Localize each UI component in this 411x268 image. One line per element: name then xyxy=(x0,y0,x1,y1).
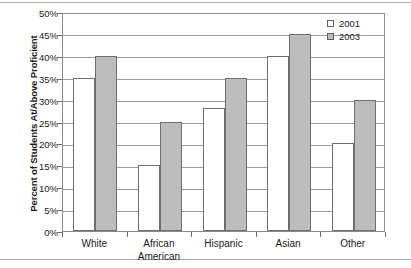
bar-white-2003 xyxy=(95,56,117,231)
bar-white-2001 xyxy=(73,78,95,231)
bar-other-2003 xyxy=(354,100,376,231)
x-axis-tick-mark xyxy=(191,232,192,237)
y-axis-tick-label: 50% xyxy=(12,8,58,19)
y-axis-tick-label: 25% xyxy=(12,117,58,128)
legend-item-2003[interactable]: 2003 xyxy=(327,30,383,42)
bar-hispanic-2001 xyxy=(203,108,225,231)
legend-item-label: 2003 xyxy=(339,31,360,42)
bar-african-american-2003 xyxy=(160,122,182,232)
x-axis-category-label: African American xyxy=(127,238,192,263)
y-axis-tick-label: 40% xyxy=(12,51,58,62)
x-axis-tick-mark xyxy=(127,232,128,237)
y-axis-tick-label: 0% xyxy=(12,227,58,238)
y-axis-tick-label: 10% xyxy=(12,183,58,194)
bar-other-2001 xyxy=(332,143,354,231)
y-axis-tick-label: 45% xyxy=(12,29,58,40)
legend-item-2001[interactable]: 2001 xyxy=(327,17,383,29)
legend-swatch-2003 xyxy=(327,33,334,40)
x-axis-category-label: Other xyxy=(320,238,385,251)
y-axis-tick-label: 30% xyxy=(12,95,58,106)
x-axis-tick-mark xyxy=(320,232,321,237)
bar-asian-2003 xyxy=(289,34,311,231)
plot-area xyxy=(62,13,385,232)
y-axis-tick-label: 35% xyxy=(12,73,58,84)
bar-hispanic-2003 xyxy=(225,78,247,231)
chart-legend: 20012003 xyxy=(327,17,383,43)
y-axis-tick-label: 5% xyxy=(12,205,58,216)
legend-swatch-2001 xyxy=(327,20,334,27)
x-axis-category-label: White xyxy=(62,238,127,251)
bar-asian-2001 xyxy=(267,56,289,231)
x-axis-category-label: Asian xyxy=(256,238,321,251)
page-rule-bottom xyxy=(0,259,411,260)
x-axis-category-label: Hispanic xyxy=(191,238,256,251)
bar-african-american-2001 xyxy=(138,165,160,231)
y-axis-tick-label: 15% xyxy=(12,161,58,172)
y-axis-tick-label: 20% xyxy=(12,139,58,150)
x-axis-tick-mark xyxy=(62,232,63,237)
bar-chart-figure: Percent of Students At/Above Proficient … xyxy=(0,0,411,268)
legend-item-label: 2001 xyxy=(339,18,360,29)
page-rule-top xyxy=(0,2,411,3)
x-axis-tick-mark xyxy=(385,232,386,237)
x-axis-tick-mark xyxy=(256,232,257,237)
